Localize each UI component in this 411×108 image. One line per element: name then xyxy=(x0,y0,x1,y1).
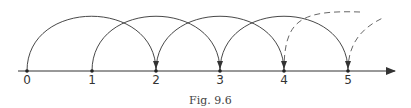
arc-5-dashed xyxy=(348,17,385,71)
tick-label-0: 0 xyxy=(23,73,31,87)
tick-label-1: 1 xyxy=(88,73,96,87)
arrowhead-icon xyxy=(153,61,159,69)
arrowhead-icon xyxy=(345,61,351,69)
arc-0-to-2 xyxy=(27,16,156,71)
landing-arrowheads xyxy=(153,61,351,69)
tick-label-4: 4 xyxy=(280,73,288,87)
number-line-diagram: 0 1 2 3 4 5 Fig. 9.6 xyxy=(0,0,411,108)
tick-label-3: 3 xyxy=(216,73,224,87)
figure-caption: Fig. 9.6 xyxy=(189,94,232,107)
solid-arcs xyxy=(27,16,348,71)
dashed-arcs xyxy=(284,12,385,71)
tick-label-5: 5 xyxy=(344,73,352,87)
arrowhead-icon xyxy=(281,61,287,69)
arrowhead-icon xyxy=(217,61,223,69)
tick-label-2: 2 xyxy=(152,73,160,87)
